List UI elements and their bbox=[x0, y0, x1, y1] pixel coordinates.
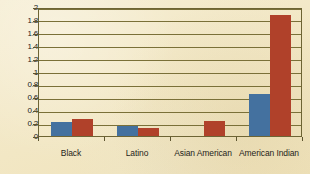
bar-group bbox=[116, 9, 160, 136]
bar-chart: 00.20.40.60.811.21.41.61.82BlackLatinoAs… bbox=[0, 0, 310, 174]
y-axis-tick-mark bbox=[33, 47, 38, 48]
x-axis-tick-mark bbox=[104, 137, 105, 141]
y-axis-tick-mark bbox=[33, 85, 38, 86]
y-axis-tick-mark bbox=[33, 34, 38, 35]
bar-series-red-latino[interactable] bbox=[138, 128, 159, 136]
y-axis-tick-mark bbox=[33, 73, 38, 74]
bar-group bbox=[50, 9, 94, 136]
x-axis-tick-mark bbox=[38, 137, 39, 141]
bar-series-blue-latino[interactable] bbox=[117, 126, 138, 136]
x-axis-tick-mark bbox=[302, 137, 303, 141]
x-axis-label-latino: Latino bbox=[126, 148, 149, 158]
x-axis-label-black: Black bbox=[61, 148, 81, 158]
y-axis-tick-mark bbox=[33, 60, 38, 61]
x-axis-tick-mark bbox=[236, 137, 237, 141]
bar-series-red-black[interactable] bbox=[72, 119, 93, 136]
bar-series-red-asian-american[interactable] bbox=[204, 121, 225, 136]
x-axis-label-american-indian: American Indian bbox=[239, 148, 299, 158]
y-axis-tick-mark bbox=[33, 8, 38, 9]
y-axis-tick-mark bbox=[33, 124, 38, 125]
x-axis-tick-mark bbox=[170, 137, 171, 141]
y-axis-tick-mark bbox=[33, 111, 38, 112]
bar-series-red-american-indian[interactable] bbox=[270, 15, 291, 136]
bar-group bbox=[182, 9, 226, 136]
bar-group bbox=[248, 9, 292, 136]
plot-area bbox=[38, 8, 302, 137]
y-axis-tick-mark bbox=[33, 98, 38, 99]
y-axis-tick-mark bbox=[33, 21, 38, 22]
bar-series-blue-american-indian[interactable] bbox=[249, 94, 270, 136]
bar-series-blue-black[interactable] bbox=[51, 122, 72, 136]
x-axis-label-asian-american: Asian American bbox=[174, 148, 232, 158]
